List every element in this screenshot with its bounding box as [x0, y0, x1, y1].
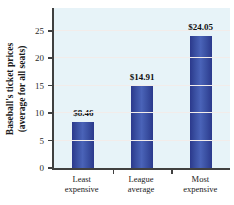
- x-category-label-0: Leastexpensive: [52, 174, 111, 194]
- x-axis-labels: LeastexpensiveLeagueaverageMostexpensive: [52, 174, 230, 194]
- bar-column-2: $24.05: [171, 8, 230, 168]
- y-tick-mark-15: [48, 85, 52, 87]
- y-tick-label-15: 15: [28, 81, 44, 91]
- x-category-label-1-line: average: [111, 184, 170, 194]
- gridline-5: [54, 140, 230, 141]
- bar-2: [190, 36, 212, 168]
- x-category-label-0-line: expensive: [52, 184, 111, 194]
- y-tick-mark-0: [48, 167, 52, 169]
- x-category-label-0-line: Least: [52, 174, 111, 184]
- y-axis-title-line1: Baseball's ticket prices: [5, 43, 17, 135]
- bar-chart-figure: Baseball's ticket prices (average for al…: [0, 0, 234, 205]
- gridline-25: [54, 30, 230, 31]
- y-axis-title: Baseball's ticket prices (average for al…: [5, 43, 29, 135]
- x-category-label-1-line: League: [111, 174, 170, 184]
- y-tick-mark-20: [48, 57, 52, 59]
- plot-area: $8.46$14.91$24.05: [52, 8, 230, 170]
- x-category-label-2-line: Most: [171, 174, 230, 184]
- y-tick-label-0: 0: [28, 163, 44, 173]
- y-tick-mark-25: [48, 30, 52, 32]
- y-tick-mark-5: [48, 140, 52, 142]
- bar-column-1: $14.91: [113, 8, 172, 168]
- x-category-label-2: Mostexpensive: [171, 174, 230, 194]
- bar-0: [72, 122, 94, 168]
- y-tick-label-10: 10: [28, 108, 44, 118]
- bar-1: [131, 86, 153, 168]
- y-tick-mark-10: [48, 112, 52, 114]
- y-tick-label-20: 20: [28, 53, 44, 63]
- x-category-label-1: Leagueaverage: [111, 174, 170, 194]
- gridline-10: [54, 112, 230, 113]
- bar-value-label-1: $14.91: [113, 72, 172, 82]
- gridline-15: [54, 85, 230, 86]
- bar-columns: $8.46$14.91$24.05: [54, 8, 230, 168]
- gridline-20: [54, 57, 230, 58]
- y-tick-label-5: 5: [28, 136, 44, 146]
- bar-column-0: $8.46: [54, 8, 113, 168]
- y-tick-label-25: 25: [28, 26, 44, 36]
- x-category-label-2-line: expensive: [171, 184, 230, 194]
